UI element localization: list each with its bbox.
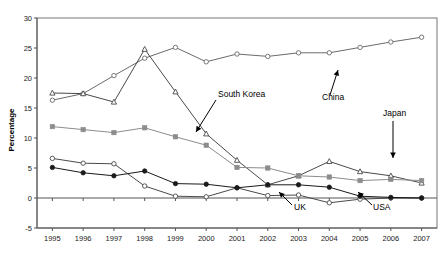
y-axis-tick-label: 20 [24, 74, 32, 83]
x-axis-tick-label: 2004 [321, 234, 338, 243]
data-point-japan [419, 178, 423, 182]
x-axis-tick-label: 2003 [290, 234, 307, 243]
data-point-uk [50, 156, 54, 160]
y-axis-tick-label: 25 [24, 44, 32, 53]
data-point-japan [112, 130, 116, 134]
data-point-usa [81, 171, 85, 175]
y-axis-tick-label: 5 [28, 164, 32, 173]
chart-container: -5051015202530 1995199619971998199920002… [0, 0, 447, 262]
data-point-japan [173, 135, 177, 139]
data-point-japan [389, 177, 393, 181]
data-point-usa [235, 186, 239, 190]
y-axis-tick-label: -5 [25, 224, 32, 233]
data-point-uk [204, 195, 208, 199]
data-point-china [50, 98, 54, 102]
data-point-usa [296, 183, 300, 187]
data-point-china [204, 60, 208, 64]
data-point-usa [112, 174, 116, 178]
y-axis-tick-label: 0 [28, 194, 32, 203]
annotation-label-uk: UK [294, 202, 306, 212]
data-point-china [296, 51, 300, 55]
annotation-label-south-korea: South Korea [218, 89, 266, 99]
data-point-uk [173, 194, 177, 198]
data-point-japan [296, 174, 300, 178]
annotation-label-usa: USA [373, 202, 391, 212]
data-point-uk [296, 193, 300, 197]
x-axis-tick-label: 1998 [136, 234, 153, 243]
data-point-japan [358, 178, 362, 182]
data-point-japan [81, 127, 85, 131]
data-point-uk [327, 201, 331, 205]
data-point-japan [142, 126, 146, 130]
line-chart: -5051015202530 1995199619971998199920002… [0, 0, 447, 262]
x-axis-tick-label: 2006 [383, 234, 400, 243]
data-point-china [266, 54, 270, 58]
x-axis-tick-label: 2002 [259, 234, 276, 243]
y-axis-tick-label: 15 [24, 104, 32, 113]
data-point-japan [235, 165, 239, 169]
data-point-usa [266, 183, 270, 187]
data-point-japan [327, 175, 331, 179]
data-point-usa [50, 165, 54, 169]
data-point-japan [266, 166, 270, 170]
x-axis-tick-label: 2007 [413, 234, 430, 243]
data-point-usa [204, 182, 208, 186]
data-point-china [142, 56, 146, 60]
data-point-usa [142, 169, 146, 173]
data-point-china [358, 45, 362, 49]
data-point-uk [142, 184, 146, 188]
data-point-usa [173, 181, 177, 185]
x-axis-tick-label: 1996 [75, 234, 92, 243]
chart-background [0, 0, 447, 262]
x-axis-tick-label: 2001 [229, 234, 246, 243]
y-axis-tick-label: 10 [24, 134, 32, 143]
data-point-china [389, 40, 393, 44]
x-axis-tick-label: 1999 [167, 234, 184, 243]
data-point-japan [204, 143, 208, 147]
annotation-label-japan: Japan [383, 108, 406, 118]
data-point-usa [419, 196, 423, 200]
data-point-usa [389, 195, 393, 199]
y-axis-tick-label: 30 [24, 14, 32, 23]
data-point-japan [50, 124, 54, 128]
x-axis-tick-label: 1997 [106, 234, 123, 243]
x-axis-tick-label: 1995 [44, 234, 61, 243]
data-point-china [235, 52, 239, 56]
data-point-china [173, 45, 177, 49]
data-point-uk [112, 162, 116, 166]
x-axis-tick-label: 2005 [352, 234, 369, 243]
y-axis-title: Percentage [7, 108, 16, 152]
data-point-china [112, 73, 116, 77]
data-point-china [327, 51, 331, 55]
x-axis-tick-label: 2000 [198, 234, 215, 243]
data-point-uk [81, 161, 85, 165]
data-point-usa [327, 185, 331, 189]
data-point-china [419, 35, 423, 39]
annotation-label-china: China [322, 92, 344, 102]
data-point-uk [266, 193, 270, 197]
